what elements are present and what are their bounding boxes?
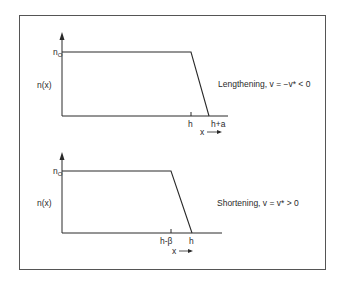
tick-label-h-plus-a: h+a (211, 119, 226, 129)
y-axis-label: n(x) (37, 198, 52, 208)
x-axis-label: x (172, 246, 177, 256)
tick-label-h-minus-beta: h-β (160, 236, 173, 246)
n0-label: nO (53, 47, 63, 58)
x-direction-arrowhead-icon (217, 130, 222, 134)
panel-lengthening: nO n(x) h h+a x Lengthening, v = −v* < 0 (37, 32, 311, 137)
figure-frame (20, 16, 326, 270)
n0-label: nO (53, 166, 63, 177)
x-axis-label: x (200, 127, 205, 137)
y-axis-label: n(x) (37, 80, 52, 90)
density-profile (62, 52, 209, 116)
tick-label-h: h (189, 236, 194, 246)
density-profile (62, 171, 192, 233)
panel-shortening: nO n(x) h-β h x Shortening, v = v* > 0 (37, 152, 299, 256)
tick-label-h: h (188, 119, 193, 129)
diagram-canvas: nO n(x) h h+a x Lengthening, v = −v* < 0… (0, 0, 342, 287)
x-direction-arrowhead-icon (188, 249, 193, 253)
caption-lengthening: Lengthening, v = −v* < 0 (218, 79, 311, 89)
y-axis-arrow-icon (60, 152, 65, 160)
caption-shortening: Shortening, v = v* > 0 (217, 198, 299, 208)
y-axis-arrow-icon (60, 32, 65, 40)
